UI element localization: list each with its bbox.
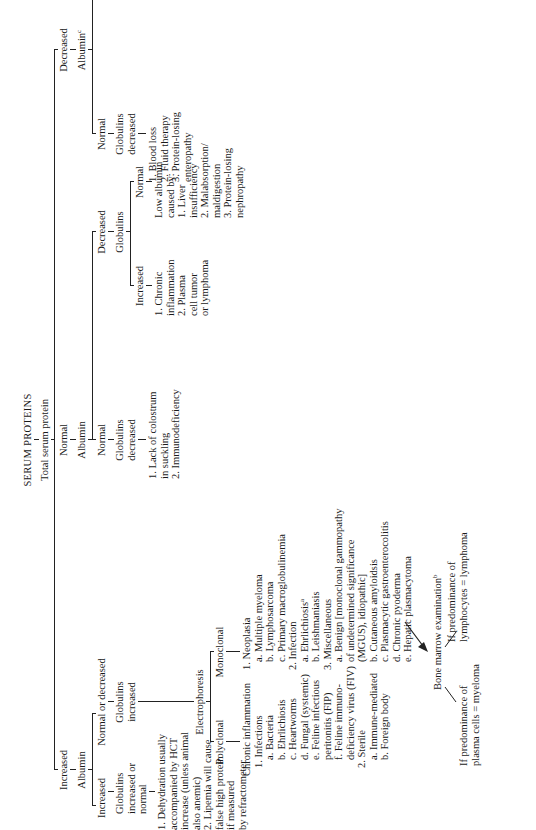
decreased-subbranch: [0, 0, 536, 802]
